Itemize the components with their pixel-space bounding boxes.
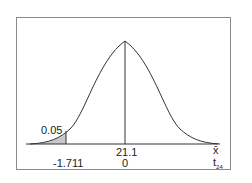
axis-xbar-label: x̄ [213,145,219,156]
mean-t-label: 0 [122,158,128,169]
critical-t-label: -1.711 [53,158,83,169]
axis-t-label: t24 [213,157,223,170]
tail-area-label: 0.05 [41,125,62,136]
axis-t-df: 24 [216,164,223,170]
